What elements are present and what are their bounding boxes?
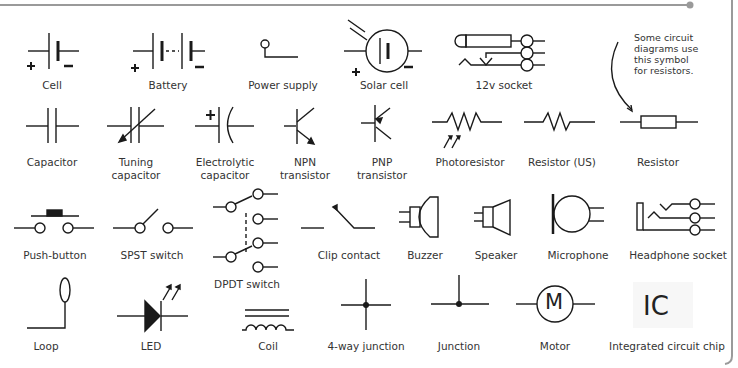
label-line: Tuning bbox=[112, 156, 161, 169]
label-resistor: Resistor bbox=[637, 156, 679, 169]
electrolytic-capacitor-icon bbox=[195, 107, 254, 143]
label-buzzer: Buzzer bbox=[407, 249, 443, 262]
loop-icon bbox=[27, 278, 70, 328]
symbols-canvas bbox=[0, 0, 738, 368]
label-4-way-junction: 4-way junction bbox=[327, 340, 404, 353]
label-led: LED bbox=[141, 340, 162, 353]
junction-icon bbox=[431, 275, 489, 307]
coil-icon bbox=[242, 310, 294, 330]
label-tuning-capacitor: Tuning capacitor bbox=[112, 156, 161, 182]
power-supply-icon bbox=[261, 40, 298, 57]
note-arrow-icon bbox=[612, 42, 632, 110]
tuning-capacitor-icon bbox=[107, 107, 164, 143]
led-icon bbox=[117, 285, 188, 331]
ic-chip-text: IC bbox=[643, 291, 669, 321]
label-resistor-us: Resistor (US) bbox=[528, 156, 596, 169]
photoresistor-icon bbox=[432, 113, 502, 148]
battery-icon bbox=[131, 33, 205, 72]
label-coil: Coil bbox=[258, 340, 278, 353]
label-motor: Motor bbox=[540, 340, 570, 353]
label-spst-switch: SPST switch bbox=[121, 249, 184, 262]
label-clip-contact: Clip contact bbox=[318, 249, 380, 262]
note-line: Some circuit bbox=[634, 32, 698, 43]
label-line: transistor bbox=[357, 169, 407, 182]
label-line: Electrolytic bbox=[196, 156, 254, 169]
label-npn-transistor: NPN transistor bbox=[280, 156, 330, 182]
motor-letter: M bbox=[545, 290, 563, 314]
label-line: capacitor bbox=[112, 169, 161, 182]
cell-icon bbox=[27, 33, 79, 70]
label-loop: Loop bbox=[33, 340, 58, 353]
label-solar-cell: Solar cell bbox=[360, 79, 408, 92]
label-line: NPN bbox=[280, 156, 330, 169]
speaker-icon bbox=[474, 200, 510, 235]
resistor-us-icon bbox=[524, 113, 595, 130]
label-speaker: Speaker bbox=[475, 249, 518, 262]
4-way-junction-icon bbox=[341, 279, 391, 330]
push-button-icon bbox=[14, 210, 94, 233]
headphone-socket-icon bbox=[637, 199, 715, 235]
label-integrated-circuit-chip: Integrated circuit chip bbox=[609, 340, 725, 353]
label-push-button: Push-button bbox=[23, 249, 86, 262]
label-line: PNP bbox=[357, 156, 407, 169]
pnp-transistor-icon bbox=[361, 105, 391, 142]
label-dpdt-switch: DPDT switch bbox=[214, 278, 280, 291]
label-battery: Battery bbox=[149, 79, 188, 92]
clip-contact-icon bbox=[301, 205, 375, 228]
label-junction: Junction bbox=[438, 340, 480, 353]
microphone-icon bbox=[553, 194, 604, 234]
note-line: diagrams use bbox=[634, 43, 698, 54]
capacitor-icon bbox=[26, 108, 79, 143]
spst-switch-icon bbox=[113, 209, 193, 233]
label-power-supply: Power supply bbox=[248, 79, 318, 92]
note-line: for resistors. bbox=[634, 65, 698, 76]
label-capacitor: Capacitor bbox=[27, 156, 77, 169]
resistor-icon bbox=[620, 116, 698, 128]
note-line: this symbol bbox=[634, 54, 698, 65]
label-line: capacitor bbox=[196, 169, 254, 182]
solar-cell-icon bbox=[344, 20, 422, 76]
npn-transistor-icon bbox=[284, 108, 314, 144]
label-cell: Cell bbox=[42, 79, 62, 92]
label-headphone-socket: Headphone socket bbox=[629, 249, 727, 262]
label-photoresistor: Photoresistor bbox=[435, 156, 504, 169]
label-electrolytic-capacitor: Electrolytic capacitor bbox=[196, 156, 254, 182]
12v-socket-icon bbox=[455, 35, 545, 71]
label-microphone: Microphone bbox=[547, 249, 608, 262]
resistor-note: Some circuit diagrams use this symbol fo… bbox=[634, 32, 698, 76]
label-pnp-transistor: PNP transistor bbox=[357, 156, 407, 182]
label-line: transistor bbox=[280, 169, 330, 182]
buzzer-icon bbox=[399, 197, 438, 237]
label-12v-socket: 12v socket bbox=[476, 79, 533, 92]
dpdt-switch-icon bbox=[213, 189, 278, 272]
